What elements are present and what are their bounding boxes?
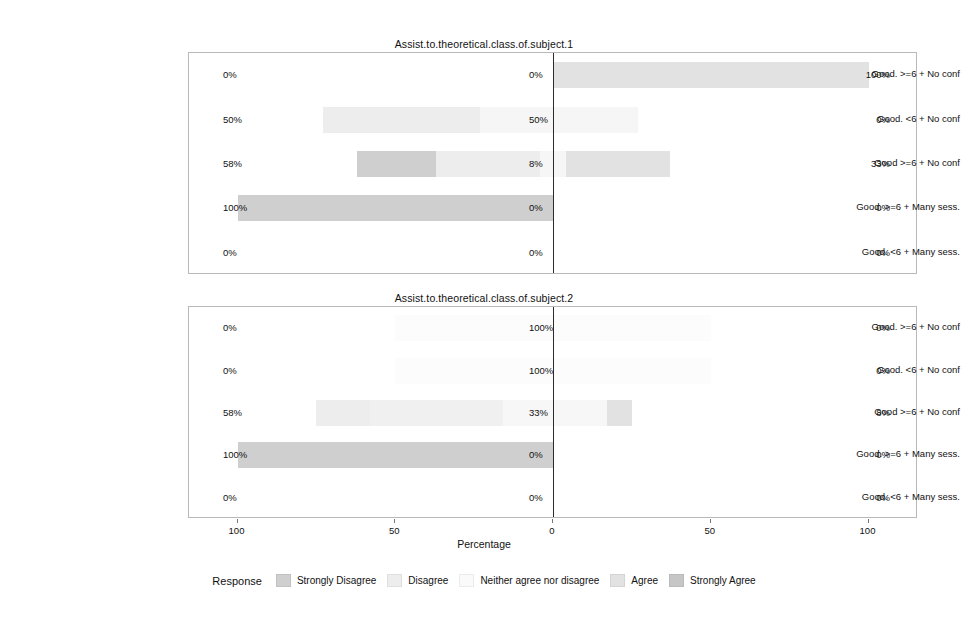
row-value-left: 100% xyxy=(223,449,247,460)
bar-segment xyxy=(357,151,436,177)
bar-segment xyxy=(238,442,554,468)
legend-label: Disagree xyxy=(408,575,448,586)
bar-segment xyxy=(238,195,554,221)
x-axis-tick xyxy=(237,519,238,523)
x-axis-tick xyxy=(394,519,395,523)
y-axis-category-label: Good. <6 + Many sess. xyxy=(790,246,968,257)
x-axis-title: Percentage xyxy=(0,538,968,550)
row-value-middle: 0% xyxy=(529,69,543,80)
bar-segment xyxy=(323,107,481,133)
legend-item[interactable]: Neither agree nor disagree xyxy=(459,574,599,587)
bar-segment xyxy=(436,151,540,177)
x-axis-tick-label: 50 xyxy=(389,525,400,536)
panel-1-zero-line xyxy=(553,53,554,273)
legend-swatch-icon xyxy=(610,574,625,587)
legend-label: Neither agree nor disagree xyxy=(480,575,599,586)
row-value-middle: 0% xyxy=(529,492,543,503)
panel-2-title: Assist.to.theoretical.class.of.subject.2 xyxy=(0,292,968,304)
row-value-left: 0% xyxy=(223,492,237,503)
bar-segment xyxy=(370,400,503,426)
row-value-middle: 100% xyxy=(529,322,553,333)
x-axis-tick xyxy=(710,519,711,523)
row-value-middle: 0% xyxy=(529,202,543,213)
x-axis-tick-label: 100 xyxy=(229,525,245,536)
row-value-left: 0% xyxy=(223,365,237,376)
legend-swatch-icon xyxy=(276,574,291,587)
row-value-middle: 0% xyxy=(529,449,543,460)
row-value-left: 100% xyxy=(223,202,247,213)
y-axis-category-label: Good. >=6 + Many sess. xyxy=(790,448,968,459)
bar-segment xyxy=(316,400,370,426)
row-value-left: 0% xyxy=(223,322,237,333)
x-axis-tick xyxy=(552,519,553,523)
row-value-left: 0% xyxy=(223,69,237,80)
bar-segment xyxy=(566,151,670,177)
y-axis-category-label: Good. <6 + No conf xyxy=(790,364,968,375)
row-value-left: 58% xyxy=(223,158,242,169)
legend-item[interactable]: Agree xyxy=(610,574,658,587)
x-axis-tick-label: 50 xyxy=(704,525,715,536)
bar-segment xyxy=(607,400,632,426)
row-value-middle: 0% xyxy=(529,247,543,258)
legend-item[interactable]: Strongly Agree xyxy=(669,574,756,587)
row-value-left: 0% xyxy=(223,247,237,258)
legend-label: Strongly Disagree xyxy=(297,575,376,586)
legend-label: Strongly Agree xyxy=(690,575,756,586)
x-axis-tick xyxy=(868,519,869,523)
y-axis-category-label: Good. <6 + No conf xyxy=(790,113,968,124)
legend: Response Strongly DisagreeDisagreeNeithe… xyxy=(0,574,968,587)
row-value-left: 58% xyxy=(223,407,242,418)
row-value-middle: 33% xyxy=(529,407,548,418)
panel-2-zero-line xyxy=(553,307,554,517)
y-axis-category-label: Good. >=6 + No conf xyxy=(790,68,968,79)
bar-segment xyxy=(503,400,607,426)
x-axis-tick-label: 0 xyxy=(549,525,554,536)
panel-1-title: Assist.to.theoretical.class.of.subject.1 xyxy=(0,38,968,50)
legend-item[interactable]: Strongly Disagree xyxy=(276,574,376,587)
row-value-middle: 50% xyxy=(529,114,548,125)
legend-item[interactable]: Disagree xyxy=(387,574,448,587)
x-axis-tick-label: 100 xyxy=(860,525,876,536)
row-value-middle: 8% xyxy=(529,158,543,169)
likert-figure: Assist.to.theoretical.class.of.subject.1… xyxy=(0,0,968,626)
legend-title: Response xyxy=(212,575,262,587)
legend-swatch-icon xyxy=(387,574,402,587)
legend-label: Agree xyxy=(631,575,658,586)
y-axis-category-label: Good. >=6 + No conf xyxy=(790,321,968,332)
legend-swatch-icon xyxy=(459,574,474,587)
y-axis-category-label: Good >=6 + No conf xyxy=(790,157,968,168)
legend-swatch-icon xyxy=(669,574,684,587)
y-axis-category-label: Good. >=6 + Many sess. xyxy=(790,201,968,212)
y-axis-category-label: Good. <6 + Many sess. xyxy=(790,491,968,502)
bar-segment xyxy=(480,107,638,133)
row-value-middle: 100% xyxy=(529,365,553,376)
y-axis-category-label: Good >=6 + No conf xyxy=(790,406,968,417)
row-value-left: 50% xyxy=(223,114,242,125)
